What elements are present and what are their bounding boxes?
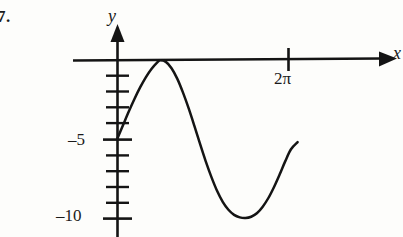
graph-canvas	[0, 0, 403, 237]
x-tick-label-2pi: 2π	[274, 70, 291, 87]
y-tick-label-neg10: –10	[56, 207, 82, 224]
x-axis-label: x	[393, 44, 401, 62]
problem-number: 7.	[0, 8, 11, 25]
x-axis-line	[73, 59, 381, 61]
figure-root: 7. y x 2π –5 –10	[0, 0, 403, 237]
y-axis-label: y	[108, 7, 116, 25]
y-axis-arrowhead	[111, 24, 125, 42]
sine-curve	[118, 60, 298, 218]
y-tick-label-neg5: –5	[68, 131, 85, 148]
